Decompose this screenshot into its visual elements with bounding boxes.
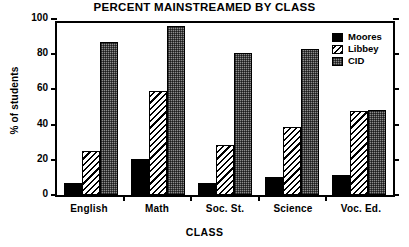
x-axis-label: Soc. St. (191, 203, 259, 214)
y-tick-label: 20 (37, 153, 48, 164)
y-tick-mark (51, 18, 57, 20)
legend-item-libbey: Libbey (332, 44, 382, 54)
x-axis-label: Math (123, 203, 191, 214)
y-axis-title: % of students (9, 41, 20, 161)
y-tick-mark-right (393, 194, 399, 196)
legend-item-cid: CID (332, 56, 382, 66)
bar-libbey (149, 91, 167, 195)
bar-moores (64, 183, 82, 195)
x-tick-mark (325, 195, 327, 201)
bar-cid (301, 49, 319, 195)
x-tick-mark (123, 195, 125, 201)
x-axis-label: Voc. Ed. (327, 203, 395, 214)
x-tick-mark (258, 195, 260, 201)
bar-cid (368, 110, 386, 195)
x-tick-mark (190, 195, 192, 201)
y-tick-label: 100 (31, 12, 48, 23)
x-axis-label: English (55, 203, 123, 214)
bar-moores (131, 159, 149, 195)
legend-swatch-icon (332, 57, 343, 66)
y-tick-label: 80 (37, 47, 48, 58)
legend-label: CID (348, 56, 364, 66)
bar-cid (100, 42, 118, 195)
bar-group (191, 23, 258, 195)
bar-moores (198, 183, 216, 195)
bar-group (57, 23, 124, 195)
legend-label: Moores (348, 32, 382, 42)
legend-swatch-icon (332, 33, 343, 42)
bar-cid (167, 26, 185, 195)
y-tick-mark-right (393, 159, 399, 161)
bar-moores (265, 177, 283, 195)
bar-libbey (283, 127, 301, 195)
legend-swatch-icon (332, 45, 343, 54)
bar-moores (332, 175, 350, 195)
chart-title: PERCENT MAINSTREAMED BY CLASS (0, 1, 409, 13)
bar-libbey (216, 145, 234, 195)
y-tick-label: 40 (37, 118, 48, 129)
y-tick-mark-right (393, 124, 399, 126)
x-axis-title: CLASS (0, 226, 409, 238)
y-tick-label: 0 (42, 188, 48, 199)
bar-chart: PERCENT MAINSTREAMED BY CLASS % of stude… (0, 0, 409, 247)
bar-group (124, 23, 191, 195)
legend-item-moores: Moores (332, 32, 382, 42)
y-tick-mark-right (393, 53, 399, 55)
bar-libbey (82, 151, 100, 195)
y-tick-label: 60 (37, 82, 48, 93)
bar-libbey (350, 111, 368, 195)
bar-cid (234, 53, 252, 195)
legend-label: Libbey (348, 44, 379, 54)
chart-legend: MooresLibbeyCID (330, 31, 384, 67)
y-tick-mark-right (393, 88, 399, 90)
bar-group (259, 23, 326, 195)
x-axis-label: Science (259, 203, 327, 214)
x-axis-labels: EnglishMathSoc. St.ScienceVoc. Ed. (55, 203, 395, 214)
y-tick-mark-right (393, 18, 399, 20)
